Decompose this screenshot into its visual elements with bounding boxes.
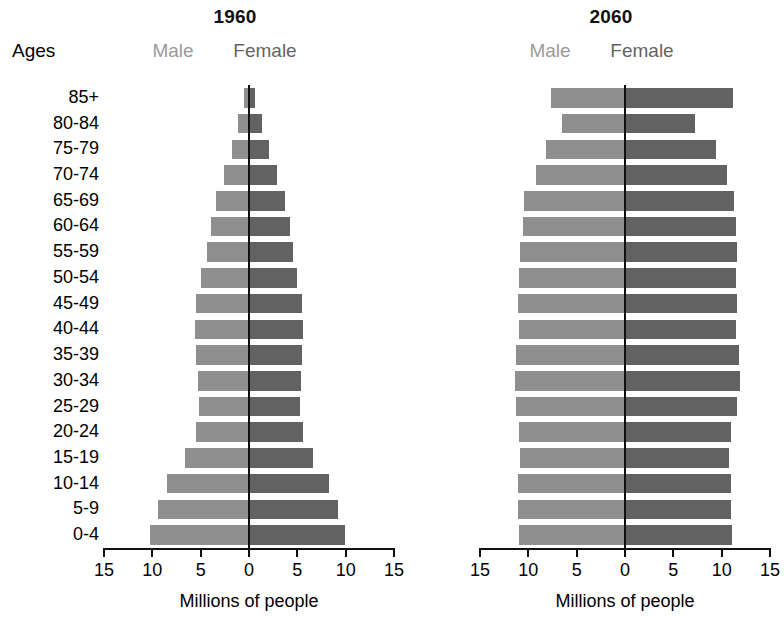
bar-male xyxy=(518,294,625,314)
bar-female xyxy=(625,474,731,494)
x-axis-tick xyxy=(393,548,395,557)
bar-male xyxy=(195,320,249,340)
x-axis-tick xyxy=(345,548,347,557)
bar-male xyxy=(201,268,249,288)
bar-female xyxy=(249,114,262,134)
bar-female xyxy=(625,191,734,211)
bar-male xyxy=(207,242,249,262)
bar-male xyxy=(516,397,625,417)
zero-axis-line-1960 xyxy=(248,85,250,548)
age-label: 5-9 xyxy=(73,498,99,518)
bar-female xyxy=(625,140,716,160)
bar-female xyxy=(625,525,732,545)
x-axis-tick xyxy=(624,548,626,557)
bar-female xyxy=(249,422,303,442)
x-axis-tick-label: 5 xyxy=(653,560,693,581)
bar-female xyxy=(249,371,301,391)
age-label: 50-54 xyxy=(53,267,99,287)
x-axis-tick xyxy=(769,548,771,557)
x-axis-1960: Millions of people 15105051015 xyxy=(104,548,394,598)
age-label: 70-74 xyxy=(53,164,99,184)
bar-female xyxy=(625,448,729,468)
bar-female xyxy=(249,500,338,520)
bar-male xyxy=(216,191,249,211)
bar-male xyxy=(518,500,625,520)
bar-female xyxy=(625,500,731,520)
bar-male xyxy=(158,500,249,520)
zero-axis-line-2060 xyxy=(624,85,626,548)
bar-male xyxy=(524,191,625,211)
bar-female xyxy=(249,294,302,314)
age-category-labels: 85+80-8475-7970-7465-6960-6455-5950-5445… xyxy=(0,85,104,548)
bar-female xyxy=(625,114,695,134)
x-axis-tick xyxy=(527,548,529,557)
age-label: 55-59 xyxy=(53,241,99,261)
age-label: 85+ xyxy=(68,87,99,107)
x-axis-tick-label: 0 xyxy=(605,560,645,581)
bar-male xyxy=(185,448,249,468)
bar-female xyxy=(249,397,300,417)
bar-male xyxy=(518,474,625,494)
panel-title-2060: 2060 xyxy=(541,6,681,28)
bar-female xyxy=(249,525,345,545)
bar-male xyxy=(199,397,249,417)
bar-male xyxy=(546,140,625,160)
x-axis-tick-label: 15 xyxy=(460,560,500,581)
bar-male xyxy=(536,165,625,185)
population-pyramid-figure: 1960 2060 Ages Male Female Male Female 8… xyxy=(0,0,784,620)
x-axis-tick xyxy=(296,548,298,557)
age-label: 30-34 xyxy=(53,370,99,390)
plot-area-1960 xyxy=(104,85,394,548)
bar-female xyxy=(249,448,313,468)
bar-female xyxy=(625,294,737,314)
bar-female xyxy=(625,422,731,442)
bar-female xyxy=(249,268,297,288)
bar-female xyxy=(625,88,733,108)
bar-male xyxy=(232,140,249,160)
bar-male xyxy=(515,371,625,391)
bar-female xyxy=(625,165,727,185)
bar-male xyxy=(516,345,625,365)
bar-male xyxy=(150,525,249,545)
x-axis-title-2060: Millions of people xyxy=(480,591,770,612)
age-label: 80-84 xyxy=(53,113,99,133)
x-axis-tick-label: 5 xyxy=(557,560,597,581)
x-axis-tick-label: 10 xyxy=(132,560,172,581)
bar-male xyxy=(211,217,249,237)
bar-male xyxy=(519,422,625,442)
x-axis-tick-label: 15 xyxy=(374,560,414,581)
bar-female xyxy=(249,140,269,160)
legend-female-1960: Female xyxy=(219,40,311,62)
x-axis-tick xyxy=(672,548,674,557)
x-axis-tick-label: 15 xyxy=(750,560,784,581)
x-axis-tick xyxy=(721,548,723,557)
bar-female xyxy=(625,371,740,391)
legend-male-2060: Male xyxy=(515,40,585,62)
bar-female xyxy=(249,191,285,211)
bar-female xyxy=(249,242,293,262)
x-axis-tick xyxy=(479,548,481,557)
x-axis-tick-label: 5 xyxy=(277,560,317,581)
age-label: 10-14 xyxy=(53,473,99,493)
x-axis-tick xyxy=(151,548,153,557)
age-label: 35-39 xyxy=(53,344,99,364)
age-label: 65-69 xyxy=(53,190,99,210)
x-axis-tick xyxy=(200,548,202,557)
bar-female xyxy=(249,217,290,237)
bar-male xyxy=(196,345,249,365)
bar-male xyxy=(519,268,625,288)
x-axis-tick-label: 10 xyxy=(702,560,742,581)
bar-female xyxy=(249,474,329,494)
x-axis-tick-label: 15 xyxy=(84,560,124,581)
legend-male-1960: Male xyxy=(138,40,208,62)
legend-female-2060: Female xyxy=(596,40,688,62)
bar-female xyxy=(625,320,736,340)
x-axis-tick xyxy=(576,548,578,557)
age-label: 25-29 xyxy=(53,396,99,416)
x-axis-tick xyxy=(248,548,250,557)
x-axis-tick-label: 0 xyxy=(229,560,269,581)
bar-female xyxy=(249,320,303,340)
age-label: 40-44 xyxy=(53,318,99,338)
ages-axis-header: Ages xyxy=(12,40,55,62)
bar-female xyxy=(625,217,736,237)
